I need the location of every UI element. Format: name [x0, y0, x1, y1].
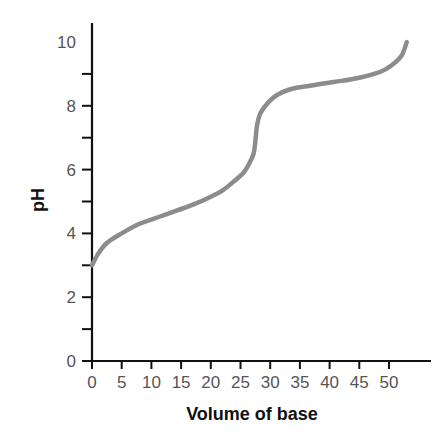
- x-tick-label: 45: [350, 373, 369, 392]
- x-axis-title: Volume of base: [186, 404, 318, 424]
- titration-curve: [92, 42, 407, 265]
- y-axis-title: pH: [28, 188, 48, 212]
- y-ticks: 0246810: [57, 33, 92, 371]
- x-tick-label: 10: [142, 373, 161, 392]
- x-tick-label: 35: [290, 373, 309, 392]
- y-tick-label: 8: [67, 97, 76, 116]
- x-tick-label: 25: [231, 373, 250, 392]
- y-tick-label: 4: [67, 224, 76, 243]
- titration-chart: 0246810 05101520253035404550 Volume of b…: [0, 0, 448, 446]
- x-tick-label: 50: [380, 373, 399, 392]
- x-tick-label: 20: [201, 373, 220, 392]
- x-tick-label: 40: [320, 373, 339, 392]
- x-tick-label: 30: [261, 373, 280, 392]
- y-tick-label: 2: [67, 288, 76, 307]
- y-tick-label: 10: [57, 33, 76, 52]
- x-tick-label: 5: [117, 373, 126, 392]
- y-tick-label: 0: [67, 352, 76, 371]
- x-tick-label: 15: [172, 373, 191, 392]
- x-tick-label: 0: [87, 373, 96, 392]
- x-ticks: 05101520253035404550: [87, 361, 398, 392]
- y-tick-label: 6: [67, 161, 76, 180]
